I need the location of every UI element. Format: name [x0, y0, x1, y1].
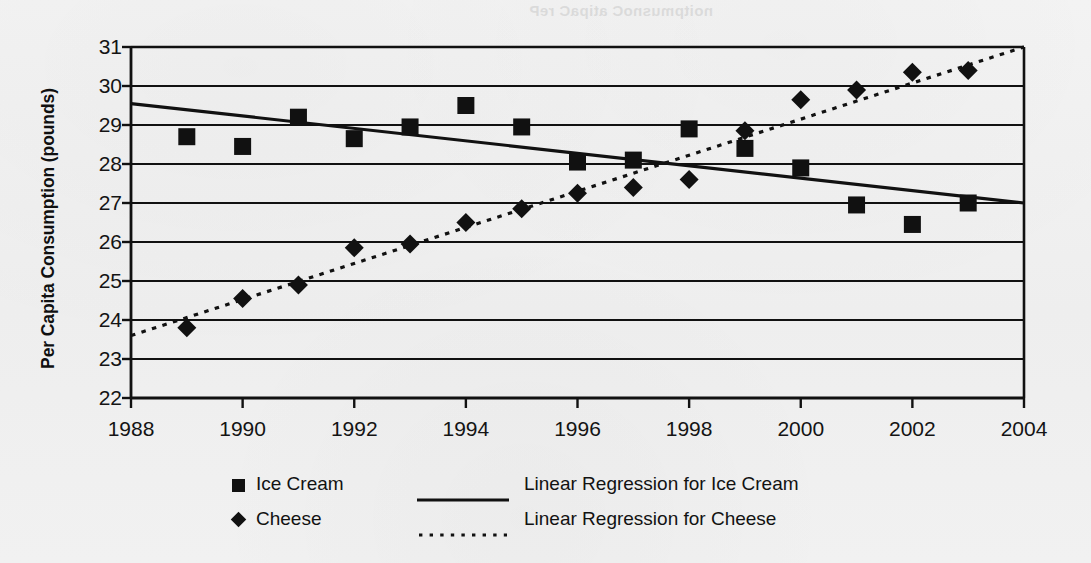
legend-label-regression-ice-cream: Linear Regression for Ice Cream: [524, 473, 799, 495]
data-point-ice-cream-2001: [848, 196, 865, 213]
legend-label-cheese: Cheese: [256, 508, 322, 530]
chart-figure: noitpmusnoC atipaC reP Per Capita Consum…: [0, 0, 1091, 563]
data-point-cheese-2000: [791, 90, 810, 109]
data-point-cheese-1993: [401, 234, 420, 253]
data-point-ice-cream-2000: [792, 159, 809, 176]
data-point-ice-cream-2003: [960, 195, 977, 212]
data-point-ice-cream-1995: [513, 118, 530, 135]
data-point-cheese-1990: [233, 289, 252, 308]
data-point-ice-cream-1991: [290, 109, 307, 126]
data-point-cheese-2003: [959, 61, 978, 80]
legend-label-ice-cream: Ice Cream: [256, 473, 344, 495]
data-point-ice-cream-1999: [736, 140, 753, 157]
legend-row-ice-cream: Ice Cream Linear Regression for Ice Crea…: [232, 472, 872, 502]
data-point-cheese-1997: [624, 178, 643, 197]
data-point-ice-cream-1992: [346, 130, 363, 147]
chart-legend: Ice Cream Linear Regression for Ice Crea…: [232, 472, 872, 542]
data-point-cheese-1998: [680, 170, 699, 189]
diamond-marker-icon: [232, 514, 244, 525]
data-point-ice-cream-1990: [234, 138, 251, 155]
data-point-ice-cream-1997: [625, 152, 642, 169]
data-point-cheese-1989: [177, 318, 196, 337]
data-point-cheese-2002: [903, 63, 922, 82]
legend-label-regression-cheese: Linear Regression for Cheese: [524, 508, 776, 530]
data-point-ice-cream-1989: [178, 128, 195, 145]
dotted-line-swatch-icon: [417, 520, 509, 524]
legend-row-cheese: Cheese Linear Regression for Cheese: [232, 507, 872, 537]
gridlines: [131, 47, 1024, 398]
data-point-cheese-2001: [847, 80, 866, 99]
data-point-ice-cream-1996: [569, 154, 586, 171]
square-marker-icon: [232, 479, 245, 492]
data-point-ice-cream-1994: [457, 97, 474, 114]
data-point-cheese-1991: [289, 275, 308, 294]
data-point-ice-cream-2002: [904, 216, 921, 233]
data-point-ice-cream-1998: [681, 120, 698, 137]
solid-line-swatch-icon: [417, 485, 509, 489]
data-point-cheese-1996: [568, 184, 587, 203]
axis-tick-marks: [122, 47, 1024, 408]
data-point-ice-cream-1993: [402, 118, 419, 135]
axis-lines: [131, 47, 1024, 398]
